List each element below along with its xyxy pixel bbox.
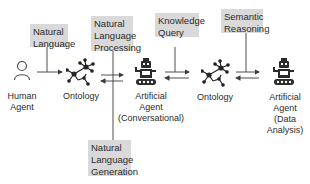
arrows-ontology2-agent-data — [236, 33, 259, 78]
label-human-agent: Human Agent — [0, 91, 44, 113]
box-text: Language — [91, 154, 128, 166]
box-text: Language — [94, 30, 130, 42]
box-semantic-reasoning: Semantic Reasoning — [221, 9, 263, 33]
label-text: Agent — [0, 102, 44, 113]
arrows-agent-conv-ontology2 — [165, 47, 189, 78]
label-text: Analysis) — [260, 125, 310, 136]
label-ontology-2: Ontology — [192, 92, 238, 103]
label-text: Ontology — [58, 91, 104, 102]
label-text: Artificial — [116, 91, 186, 102]
label-text: Human — [0, 91, 44, 102]
box-natural-language: Natural Language — [30, 24, 68, 47]
ontology-graph-icon — [66, 58, 96, 86]
label-text: Ontology — [192, 92, 238, 103]
label-text: Artificial — [260, 92, 310, 103]
label-text: Agent — [260, 103, 310, 114]
human-icon — [13, 60, 31, 82]
robot-icon — [272, 58, 296, 86]
box-text: Semantic — [224, 11, 260, 23]
label-artificial-agent-conversational: Artificial Agent (Conversational) — [116, 91, 186, 124]
box-text: Knowledge — [158, 15, 196, 27]
box-knowledge-query: Knowledge Query — [155, 13, 199, 37]
box-text: Natural — [94, 18, 130, 30]
box-text: Reasoning — [224, 23, 260, 35]
box-text: Natural — [33, 26, 65, 38]
label-text: (Conversational) — [116, 113, 186, 124]
box-text: Language — [33, 38, 65, 50]
box-text: Processing — [94, 42, 130, 54]
label-text: Agent — [116, 102, 186, 113]
ontology-graph-icon — [201, 59, 231, 87]
label-artificial-agent-data-analysis: Artificial Agent (Data Analysis) — [260, 92, 310, 136]
box-text: Query — [158, 27, 196, 39]
label-ontology-1: Ontology — [58, 91, 104, 102]
box-text: Natural — [91, 142, 128, 154]
label-text: (Data — [260, 114, 310, 125]
box-natural-language-processing: Natural Language Processing — [91, 16, 133, 51]
box-text: Generation — [91, 166, 128, 178]
box-natural-language-generation: Natural Language Generation — [88, 140, 131, 176]
robot-icon — [134, 58, 158, 86]
